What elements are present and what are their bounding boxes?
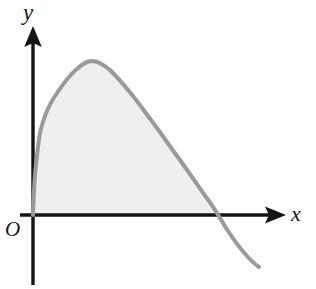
origin-label: O bbox=[5, 219, 20, 240]
x-axis-label: x bbox=[291, 203, 301, 225]
plot-canvas bbox=[0, 0, 316, 289]
math-figure: y x O bbox=[0, 0, 316, 289]
y-axis-label: y bbox=[23, 1, 33, 24]
